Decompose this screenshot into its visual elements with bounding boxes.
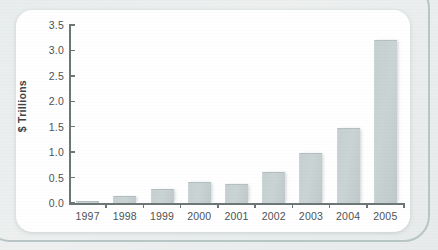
bar-1999 [151, 189, 174, 203]
x-tick-label: 2001 [224, 210, 248, 222]
bar-chart-plot: $ Trillions 0.00.51.01.52.02.53.03.5 199… [0, 0, 438, 250]
y-tick-mark [69, 24, 75, 26]
x-tick-label: 2000 [187, 210, 211, 222]
x-tick-mark [366, 203, 368, 208]
y-tick-label: 2.0 [49, 95, 64, 107]
y-tick-mark [69, 151, 75, 153]
y-tick-mark [69, 177, 75, 179]
x-axis-line [69, 203, 404, 205]
y-tick-mark [69, 50, 75, 52]
y-tick-mark [69, 101, 75, 103]
x-tick-mark [105, 203, 107, 208]
x-tick-label: 2004 [336, 210, 360, 222]
bar-1998 [113, 196, 136, 203]
bar-2002 [262, 172, 285, 203]
y-tick-label: 1.0 [49, 146, 64, 158]
chart-page: $ Trillions 0.00.51.01.52.02.53.03.5 199… [0, 0, 438, 250]
x-tick-label: 1999 [150, 210, 174, 222]
y-tick-label: 3.0 [49, 44, 64, 56]
x-tick-mark [403, 203, 405, 208]
bar-2003 [299, 153, 322, 203]
bar-2004 [337, 128, 360, 203]
x-tick-label: 2005 [373, 210, 397, 222]
x-tick-mark [292, 203, 294, 208]
x-tick-mark [254, 203, 256, 208]
y-axis-title: $ Trillions [16, 80, 28, 132]
y-tick-label: 0.5 [49, 172, 64, 184]
y-tick-label: 0.0 [49, 197, 64, 209]
y-tick-mark [69, 126, 75, 128]
y-tick-label: 3.5 [49, 19, 64, 31]
x-tick-label: 1997 [76, 210, 100, 222]
x-tick-label: 2002 [262, 210, 286, 222]
y-tick-label: 1.5 [49, 121, 64, 133]
bar-1997 [76, 201, 99, 203]
x-tick-label: 2003 [299, 210, 323, 222]
x-tick-mark [217, 203, 219, 208]
y-tick-mark [69, 75, 75, 77]
bar-2000 [188, 182, 211, 203]
bar-2005 [374, 40, 397, 203]
x-tick-label: 1998 [113, 210, 137, 222]
bar-2001 [225, 184, 248, 203]
x-tick-mark [180, 203, 182, 208]
y-tick-label: 2.5 [49, 70, 64, 82]
x-tick-mark [143, 203, 145, 208]
y-tick-mark [69, 202, 75, 204]
x-tick-mark [329, 203, 331, 208]
